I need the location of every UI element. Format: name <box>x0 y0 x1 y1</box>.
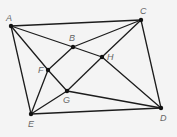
point-C <box>139 18 143 22</box>
segment-GD <box>67 91 161 108</box>
segment-GH <box>67 57 102 91</box>
point-E <box>29 112 33 116</box>
point-A <box>9 24 13 28</box>
point-label-B: B <box>69 33 75 43</box>
segments-group <box>11 20 161 114</box>
point-label-A: A <box>5 13 12 23</box>
segment-EA <box>11 26 31 114</box>
segment-EF <box>31 70 48 114</box>
point-label-D: D <box>160 113 167 123</box>
labels-group: ABCDEFGH <box>5 6 167 129</box>
point-label-C: C <box>140 6 147 16</box>
diagram-canvas: ABCDEFGH <box>0 0 177 137</box>
segment-DE <box>31 108 161 114</box>
segment-HD <box>102 57 161 108</box>
point-B <box>71 45 75 49</box>
segment-AC <box>11 20 141 26</box>
geometry-diagram: ABCDEFGH <box>0 0 177 137</box>
segment-BC <box>73 20 141 47</box>
point-label-G: G <box>63 95 70 105</box>
point-F <box>46 68 50 72</box>
segment-CD <box>141 20 161 108</box>
point-G <box>65 89 69 93</box>
point-label-F: F <box>38 65 44 75</box>
point-D <box>159 106 163 110</box>
segment-EG <box>31 91 67 114</box>
point-label-H: H <box>107 52 114 62</box>
segment-FG <box>48 70 67 91</box>
segment-BH <box>73 47 102 57</box>
segment-FB <box>48 47 73 70</box>
point-label-E: E <box>28 119 35 129</box>
point-H <box>100 55 104 59</box>
